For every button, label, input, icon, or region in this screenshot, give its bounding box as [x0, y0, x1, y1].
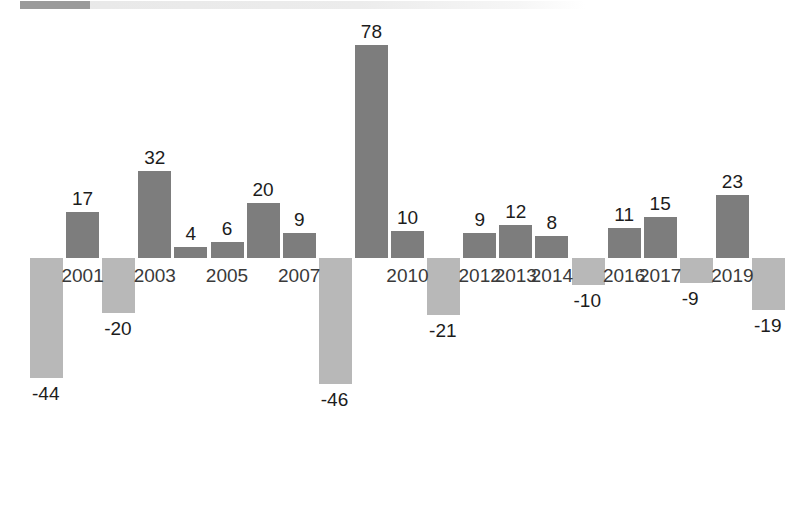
bar-2012[interactable]: [463, 233, 496, 258]
value-label-2005: 6: [211, 219, 244, 238]
x-axis-tick-2007: 2007: [276, 266, 323, 285]
x-axis-tick-2001: 2001: [59, 266, 106, 285]
value-label-2016: 11: [608, 205, 641, 224]
bar-2001[interactable]: [66, 212, 99, 258]
value-label-2011: -21: [429, 321, 456, 340]
bar-2002[interactable]: [102, 258, 135, 313]
bar-2008[interactable]: [319, 258, 352, 384]
value-label-2004: 4: [174, 224, 207, 243]
x-axis-tick-2017: 2017: [637, 266, 684, 285]
value-label-2007: 9: [283, 210, 316, 229]
bar-2018[interactable]: [680, 258, 713, 283]
x-axis-tick-2003: 2003: [131, 266, 178, 285]
bar-2003[interactable]: [138, 171, 171, 258]
value-label-2018: -9: [682, 289, 699, 308]
value-label-2008: -46: [321, 390, 348, 409]
bar-2016[interactable]: [608, 228, 641, 258]
bar-2004[interactable]: [174, 247, 207, 258]
value-label-2006: 20: [247, 180, 280, 199]
value-label-2014: 8: [535, 213, 568, 232]
value-label-2019: 23: [716, 172, 749, 191]
bar-2011[interactable]: [427, 258, 460, 315]
bar-2017[interactable]: [644, 217, 677, 258]
bar-2009[interactable]: [355, 45, 388, 258]
chart-screenshot: -4417-203246209-467810-219128-101115-923…: [0, 0, 805, 523]
bar-2015[interactable]: [572, 258, 605, 285]
bar-2005[interactable]: [211, 242, 244, 258]
bar-chart-plot: -4417-203246209-467810-219128-101115-923…: [0, 0, 805, 523]
value-label-2009: 78: [355, 22, 388, 41]
x-axis-tick-2019: 2019: [709, 266, 756, 285]
x-axis-tick-2010: 2010: [384, 266, 431, 285]
bar-2013[interactable]: [499, 225, 532, 258]
bar-2019[interactable]: [716, 195, 749, 258]
bar-2014[interactable]: [535, 236, 568, 258]
value-label-2010: 10: [391, 208, 424, 227]
x-axis-tick-2005: 2005: [204, 266, 251, 285]
value-label-2002: -20: [104, 319, 131, 338]
bar-2007[interactable]: [283, 233, 316, 258]
bar-2020[interactable]: [752, 258, 785, 310]
bar-2000[interactable]: [30, 258, 63, 378]
value-label-2013: 12: [499, 202, 532, 221]
value-label-2001: 17: [66, 189, 99, 208]
bar-2010[interactable]: [391, 231, 424, 258]
value-label-2012: 9: [463, 210, 496, 229]
value-label-2003: 32: [138, 148, 171, 167]
value-label-2015: -10: [574, 291, 601, 310]
value-label-2000: -44: [32, 384, 59, 403]
bar-2006[interactable]: [247, 203, 280, 258]
x-axis-tick-2014: 2014: [528, 266, 575, 285]
value-label-2017: 15: [644, 194, 677, 213]
value-label-2020: -19: [754, 316, 781, 335]
